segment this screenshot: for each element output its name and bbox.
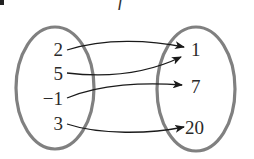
function-name-label: f <box>118 0 126 10</box>
bullet-marker <box>0 0 4 5</box>
mapping-arrow-neg1-to-7 <box>67 84 182 98</box>
range-element: 7 <box>191 76 201 97</box>
domain-element: 3 <box>54 113 64 134</box>
mapping-arrow-5-to-1 <box>67 57 181 75</box>
domain-element: 5 <box>54 63 64 84</box>
domain-element: 2 <box>54 39 64 60</box>
range-element: 1 <box>191 39 201 60</box>
function-mapping-diagram: f 2 5 −1 3 1 7 20 <box>0 0 254 159</box>
range-element: 20 <box>185 117 204 138</box>
domain-element: −1 <box>43 88 63 109</box>
